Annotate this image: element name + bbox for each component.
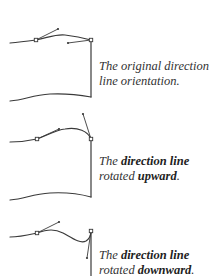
caption-line: The original direction bbox=[99, 59, 211, 74]
direction-line-left bbox=[36, 29, 58, 40]
caption-emphasis: direction line bbox=[121, 154, 189, 168]
caption-original: The original direction line orientation. bbox=[99, 59, 211, 89]
caption-line: rotated upward. bbox=[99, 169, 211, 184]
direction-line-right bbox=[83, 114, 91, 139]
bottom-curve bbox=[10, 94, 91, 101]
caption-emphasis: downward bbox=[138, 263, 192, 276]
direction-handle-icon bbox=[86, 257, 88, 259]
diagram-canvas bbox=[0, 0, 211, 276]
caption-line: The direction line bbox=[99, 248, 211, 263]
caption-text: rotated bbox=[99, 263, 138, 276]
panel-original-shape bbox=[10, 28, 93, 101]
caption-line: The direction line bbox=[99, 154, 211, 169]
direction-handle-icon bbox=[58, 221, 60, 223]
direction-line-left bbox=[37, 129, 59, 139]
caption-emphasis: upward bbox=[138, 169, 177, 183]
top-curve bbox=[10, 128, 91, 142]
direction-handle-icon bbox=[58, 128, 60, 130]
caption-line: rotated downward. bbox=[99, 263, 211, 276]
caption-emphasis: direction line bbox=[121, 248, 189, 262]
caption-downward: The direction line rotated downward. bbox=[99, 248, 211, 276]
anchor-point-icon bbox=[89, 38, 92, 41]
anchor-point-icon bbox=[34, 38, 37, 41]
caption-line: line orientation. bbox=[99, 74, 211, 89]
caption-text: . bbox=[177, 169, 180, 183]
direction-handle-icon bbox=[82, 113, 84, 115]
top-curve bbox=[10, 230, 91, 242]
caption-text: The bbox=[99, 154, 121, 168]
anchor-point-icon bbox=[35, 137, 38, 140]
anchor-point-icon bbox=[35, 231, 38, 234]
anchor-point-icon bbox=[89, 137, 92, 140]
caption-text: . bbox=[191, 263, 194, 276]
direction-handle-icon bbox=[57, 28, 59, 30]
anchor-point-icon bbox=[89, 229, 92, 232]
panel-downward-shape bbox=[10, 221, 93, 276]
caption-text: The bbox=[99, 248, 121, 262]
direction-handle-icon bbox=[67, 42, 69, 44]
direction-line-right bbox=[68, 40, 91, 43]
caption-upward: The direction line rotated upward. bbox=[99, 154, 211, 184]
bottom-curve bbox=[10, 193, 91, 200]
direction-line-left bbox=[37, 222, 59, 233]
panel-upward-shape bbox=[10, 113, 93, 200]
caption-text: rotated bbox=[99, 169, 138, 183]
